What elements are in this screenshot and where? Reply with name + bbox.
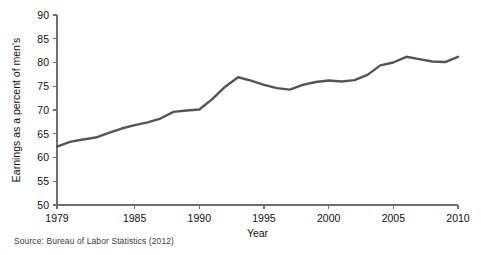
y-tick-label: 55 [37, 175, 49, 187]
source-note: Source: Bureau of Labor Statistics (2012… [14, 236, 174, 246]
x-tick-label: 1990 [188, 212, 212, 224]
x-axis: 1979198519901995200020052010 [45, 205, 470, 224]
x-tick-label: 1979 [45, 212, 69, 224]
line-chart: 505560657075808590 197919851990199520002… [0, 0, 481, 255]
x-tick-label: 2000 [317, 212, 341, 224]
data-series-group [57, 57, 458, 147]
x-axis-title: Year [247, 227, 269, 239]
y-axis-title: Earnings as a percent of men's [10, 38, 22, 182]
x-tick-label: 1995 [252, 212, 276, 224]
y-tick-label: 60 [37, 151, 49, 163]
y-tick-label: 50 [37, 199, 49, 211]
y-tick-label: 90 [37, 9, 49, 21]
y-tick-label: 75 [37, 80, 49, 92]
data-line [57, 57, 458, 147]
y-tick-label: 65 [37, 128, 49, 140]
x-tick-label: 2005 [382, 212, 406, 224]
y-tick-label: 80 [37, 56, 49, 68]
x-tick-label: 2010 [446, 212, 470, 224]
x-tick-label: 1985 [123, 212, 147, 224]
y-tick-label: 85 [37, 33, 49, 45]
y-tick-label: 70 [37, 104, 49, 116]
chart-figure: 505560657075808590 197919851990199520002… [0, 0, 481, 255]
y-axis: 505560657075808590 [37, 9, 57, 211]
